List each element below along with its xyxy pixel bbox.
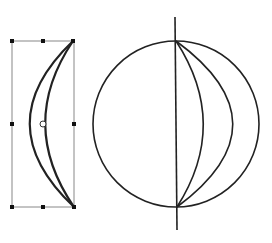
rotation-center-icon[interactable] [40,121,46,127]
handle-middle-right[interactable] [72,122,76,126]
handle-middle-left[interactable] [10,122,14,126]
handle-top-right[interactable] [71,39,75,43]
crescent-outer-curve[interactable] [30,41,74,207]
handle-bottom-left[interactable] [10,205,14,209]
handle-bottom-right[interactable] [72,205,76,209]
handle-top-left[interactable] [10,39,14,43]
sphere-axis [175,17,177,230]
meridian-arc-outer [176,41,233,207]
handle-bottom-middle[interactable] [41,205,45,209]
meridian-arc-inner [176,41,203,207]
handle-top-middle[interactable] [41,39,45,43]
diagram-canvas [0,0,272,243]
